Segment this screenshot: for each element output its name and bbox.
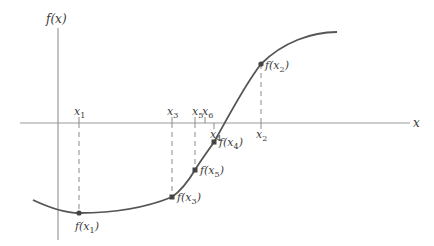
label-fx2: f(x2) [264,59,289,74]
label-fx3: f(x3) [176,191,201,206]
root-finding-diagram: f(x) x x1 x3 x5 x6 x4 x2 f(x1) f(x3) f(x… [0,0,434,246]
label-x2: x2 [256,128,267,143]
label-fx1: f(x1) [74,220,99,235]
y-axis-label: f(x) [45,12,67,26]
label-x6: x6 [202,105,213,120]
label-x1: x1 [74,105,85,120]
label-x3: x3 [167,105,178,120]
point-fx1 [76,210,81,215]
x-axis-label: x [413,116,420,130]
label-fx4: f(x4) [218,136,243,151]
point-fx3 [170,195,175,200]
label-fx5: f(x5) [199,164,224,179]
point-fx2 [258,61,263,66]
point-fx5 [193,168,198,173]
